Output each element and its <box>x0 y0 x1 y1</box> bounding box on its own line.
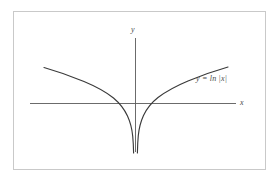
curve-branch-negative-x <box>44 68 134 154</box>
figure-container: y x y = ln |x| <box>0 0 279 181</box>
plot-area <box>0 0 279 181</box>
y-axis-label: y <box>131 26 135 34</box>
x-axis-label: x <box>240 99 244 107</box>
curve-equation-label: y = ln |x| <box>196 75 227 83</box>
